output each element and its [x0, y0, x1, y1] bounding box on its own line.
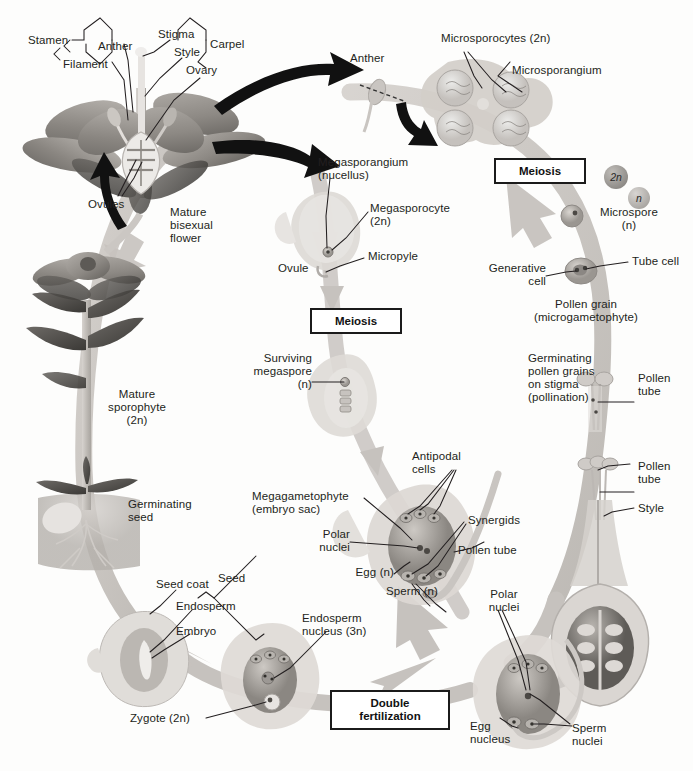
label-germinating-seed: Germinating seed [128, 498, 192, 524]
label-tube-cell: Tube cell [632, 255, 679, 268]
label-zygote: Zygote (2n) [130, 712, 190, 725]
label-endosperm-nucleus: Endosperm nucleus (3n) [302, 612, 366, 638]
label-polar-nuclei: Polar nuclei [290, 528, 350, 554]
label-ovule: Ovule [278, 262, 309, 275]
label-micropyle: Micropyle [368, 250, 418, 263]
label-egg: Egg (n) [338, 566, 394, 579]
zygote-endosperm-art [221, 623, 320, 729]
microspore-pollen-art [551, 205, 648, 706]
label-germinating-pollen-grains: Germinating pollen grains on stigma (pol… [528, 352, 595, 404]
mature-bisexual-flower-art [20, 47, 268, 214]
label-generative-cell: Generative cell [484, 262, 546, 288]
ploidy-chip-2n: 2n [604, 165, 628, 189]
label-antipodal-cells: Antipodal cells [412, 450, 461, 476]
label-stigma: Stigma [158, 28, 194, 41]
stage-box-meiosis-top[interactable]: Meiosis [494, 158, 586, 184]
label-style: Style [174, 46, 200, 59]
label-sperm: Sperm (n) [386, 585, 438, 598]
stage-box-meiosis-left[interactable]: Meiosis [310, 308, 402, 334]
label-stamen: Stamen [28, 34, 68, 47]
label-microsporangium: Microsporangium [512, 64, 602, 77]
label-megasporocyte: Megasporocyte (2n) [370, 202, 450, 228]
label-style-right: Style [638, 502, 664, 515]
label-mature-sporophyte: Mature sporophyte (2n) [92, 388, 182, 427]
seed-art [87, 611, 188, 706]
label-megagametophyte: Megagametophyte (embryo sac) [252, 490, 349, 516]
ploidy-chip-n: n [628, 187, 650, 209]
label-ovules: Ovules [88, 198, 124, 211]
label-synergids: Synergids [468, 514, 520, 527]
label-egg-nucleus: Egg nucleus [470, 720, 510, 746]
label-mature-bisexual-flower: Mature bisexual flower [170, 206, 213, 245]
label-pollen-tube-lower: Pollen tube [638, 460, 671, 486]
label-pollen-grain: Pollen grain (microgametophyte) [506, 298, 666, 324]
label-microspore: Microspore (n) [600, 206, 658, 232]
label-carpel: Carpel [210, 38, 244, 51]
label-ovary: Ovary [186, 64, 217, 77]
label-surviving-megaspore: Surviving megaspore (n) [236, 352, 312, 391]
label-megasporangium: Megasporangium (nucellus) [318, 156, 408, 182]
label-microsporocytes: Microsporocytes (2n) [441, 32, 550, 45]
label-filament: Filament [63, 58, 108, 71]
surviving-megaspore-art [307, 354, 377, 437]
angiosperm-life-cycle-figure: Stamen Anther Filament Stigma Style Carp… [0, 0, 693, 771]
label-polar-nuclei-fert: Polar nuclei [478, 588, 530, 614]
label-pollen-tube-center: Pollen tube [458, 544, 517, 557]
label-seed: Seed [218, 572, 245, 585]
label-anther: Anther [98, 40, 132, 53]
label-embryo: Embryo [176, 625, 216, 638]
label-endosperm: Endosperm [176, 600, 236, 613]
stage-box-double-fertilization[interactable]: Double fertilization [330, 690, 450, 730]
label-anther-section: Anther [350, 52, 384, 65]
label-sperm-nuclei: Sperm nuclei [572, 722, 606, 748]
label-seed-coat: Seed coat [156, 578, 209, 591]
label-pollen-tube-upper: Pollen tube [638, 372, 671, 398]
